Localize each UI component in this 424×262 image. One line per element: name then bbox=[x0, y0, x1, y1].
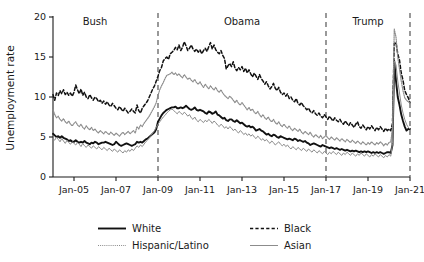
x-tick-label: Jan-21 bbox=[394, 184, 424, 195]
x-tick-label: Jan-13 bbox=[226, 184, 257, 195]
y-tick-label: 10 bbox=[34, 91, 46, 102]
x-tick-label: Jan-09 bbox=[142, 184, 173, 195]
chart-canvas: Unemployment rate 05101520 Jan-05Jan-07J… bbox=[0, 0, 424, 262]
y-axis-title: Unemployment rate bbox=[4, 45, 16, 150]
chart-background bbox=[0, 0, 424, 262]
legend-label-white[interactable]: White bbox=[132, 223, 161, 234]
x-tick-label: Jan-11 bbox=[184, 184, 215, 195]
y-tick-label: 0 bbox=[40, 171, 46, 182]
y-tick-label: 5 bbox=[40, 131, 46, 142]
x-tick-label: Jan-15 bbox=[268, 184, 299, 195]
era-label: Trump bbox=[351, 16, 383, 27]
legend-label-hispanic-latino[interactable]: Hispanic/Latino bbox=[132, 240, 209, 251]
era-label: Obama bbox=[224, 16, 260, 27]
x-tick-label: Jan-19 bbox=[352, 184, 383, 195]
unemployment-rate-chart: Unemployment rate 05101520 Jan-05Jan-07J… bbox=[0, 0, 424, 262]
y-tick-label: 20 bbox=[34, 11, 46, 22]
legend-label-black[interactable]: Black bbox=[284, 223, 311, 234]
y-tick-label: 15 bbox=[34, 51, 46, 62]
x-tick-label: Jan-17 bbox=[310, 184, 341, 195]
x-tick-label: Jan-07 bbox=[100, 184, 131, 195]
era-label: Bush bbox=[83, 16, 108, 27]
x-tick-label: Jan-05 bbox=[58, 184, 89, 195]
legend-label-asian[interactable]: Asian bbox=[284, 240, 311, 251]
